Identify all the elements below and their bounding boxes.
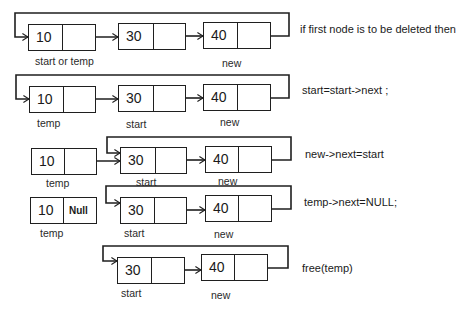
step1-caption: if first node is to be deleted then — [300, 23, 456, 35]
step5-node-40: 40 — [201, 254, 268, 281]
step1-label-new: new — [222, 57, 241, 69]
step4-caption: temp->next=NULL; — [304, 196, 397, 208]
step3-node-30: 30 — [120, 147, 187, 174]
step3-label-start: start — [136, 176, 156, 188]
node-next-pointer — [154, 86, 185, 111]
node-next-pointer — [152, 258, 184, 283]
step2-caption: start=start->next ; — [302, 84, 388, 96]
step5-caption: free(temp) — [302, 262, 353, 274]
step1-label-start-or-temp: start or temp — [35, 55, 94, 67]
node-data: 30 — [119, 24, 154, 49]
step1-node-10: 10 — [28, 24, 96, 51]
node-next-pointer — [238, 23, 270, 48]
node-next-pointer — [239, 196, 271, 221]
node-data: 30 — [121, 198, 155, 223]
node-next-pointer — [235, 255, 267, 280]
node-data: 10 — [29, 25, 63, 50]
node-next-pointer — [64, 87, 95, 112]
node-data: 10 — [32, 149, 65, 174]
step4-node-40: 40 — [205, 195, 272, 222]
node-data: 30 — [121, 148, 156, 173]
node-data: 40 — [206, 147, 239, 172]
node-data: 40 — [204, 23, 238, 48]
step3-node-40: 40 — [205, 146, 272, 173]
step4-node-10: 10 Null — [30, 197, 97, 224]
step5-label-start: start — [121, 287, 141, 299]
node-data: 40 — [202, 255, 235, 280]
node-next-pointer — [239, 147, 271, 172]
node-next-pointer — [65, 149, 96, 174]
step2-node-40: 40 — [203, 84, 271, 111]
step2-node-10: 10 — [29, 86, 96, 113]
step5-label-new: new — [211, 289, 230, 301]
node-data: 40 — [204, 85, 238, 110]
step2-label-temp: temp — [37, 117, 60, 129]
step4-label-new: new — [214, 228, 233, 240]
node-data: 10 — [30, 87, 64, 112]
node-data: 10 — [31, 198, 64, 223]
step4-label-start: start — [124, 227, 144, 239]
node-next-pointer — [154, 24, 185, 49]
step2-node-30: 30 — [118, 85, 186, 112]
step3-caption: new->next=start — [305, 148, 384, 160]
node-data: 30 — [118, 258, 152, 283]
step3-node-10: 10 — [31, 148, 97, 175]
step5-node-30: 30 — [117, 257, 185, 284]
step2-label-new: new — [220, 116, 239, 128]
step1-node-30: 30 — [118, 23, 186, 50]
node-next-pointer — [238, 85, 270, 110]
step3-label-temp: temp — [46, 177, 69, 189]
node-next-pointer — [155, 198, 186, 223]
step4-label-temp: temp — [40, 227, 63, 239]
node-data: 40 — [206, 196, 239, 221]
node-next-pointer-null: Null — [64, 198, 96, 223]
step4-node-30: 30 — [120, 197, 187, 224]
node-next-pointer — [63, 25, 95, 50]
node-next-pointer — [156, 148, 186, 173]
node-data: 30 — [119, 86, 154, 111]
step3-label-new: new — [218, 175, 237, 187]
step2-label-start: start — [126, 118, 146, 130]
step1-node-40: 40 — [203, 22, 271, 49]
